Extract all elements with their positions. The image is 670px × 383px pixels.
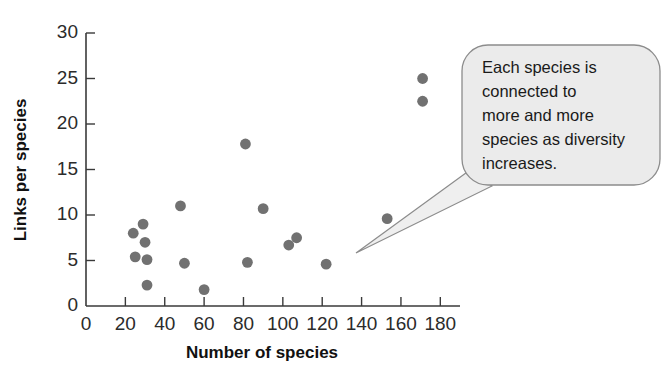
- y-tick-group: 051015202530: [57, 21, 95, 315]
- annotation-callout: Each species isconnected tomore and more…: [356, 45, 660, 253]
- callout-tail: [356, 170, 492, 253]
- data-point: [128, 228, 139, 239]
- callout-line: connected to: [482, 82, 577, 100]
- x-tick-label: 120: [306, 313, 338, 334]
- x-tick-label: 60: [194, 313, 215, 334]
- x-tick-label: 180: [424, 313, 456, 334]
- x-tick-label: 160: [385, 313, 417, 334]
- data-point: [130, 251, 141, 262]
- data-point: [199, 284, 210, 295]
- x-tick-label: 0: [81, 313, 92, 334]
- y-axis: 051015202530 Links per species: [11, 21, 95, 315]
- x-tick-label: 80: [233, 313, 254, 334]
- data-point: [179, 258, 190, 269]
- data-point: [258, 203, 269, 214]
- data-points: [128, 73, 428, 295]
- data-point: [140, 237, 151, 248]
- data-point: [242, 257, 253, 268]
- data-point: [175, 201, 186, 212]
- y-tick-label: 25: [57, 67, 78, 88]
- callout-line: Each species is: [482, 58, 597, 76]
- y-tick-label: 15: [57, 158, 78, 179]
- data-point: [417, 73, 428, 84]
- y-tick-label: 30: [57, 21, 78, 42]
- y-axis-title: Links per species: [11, 99, 30, 242]
- x-tick-group: 020406080100120140160180: [81, 297, 456, 334]
- y-tick-label: 5: [67, 249, 78, 270]
- data-point: [321, 259, 332, 270]
- chart-canvas: 051015202530 Links per species 020406080…: [0, 0, 670, 383]
- x-tick-label: 20: [115, 313, 136, 334]
- callout-line: increases.: [482, 154, 557, 172]
- y-tick-label: 20: [57, 112, 78, 133]
- x-axis-title: Number of species: [186, 343, 338, 362]
- data-point: [142, 280, 153, 291]
- data-point: [382, 213, 393, 224]
- y-tick-label: 0: [67, 294, 78, 315]
- callout-line: species as diversity: [482, 130, 626, 148]
- data-point: [142, 254, 153, 265]
- data-point: [240, 139, 251, 150]
- x-axis: 020406080100120140160180 Number of speci…: [81, 297, 460, 362]
- data-point: [291, 232, 302, 243]
- x-tick-label: 40: [154, 313, 175, 334]
- data-point: [138, 219, 149, 230]
- data-point: [417, 96, 428, 107]
- x-tick-label: 100: [267, 313, 299, 334]
- callout-line: more and more: [482, 106, 594, 124]
- x-tick-label: 140: [346, 313, 378, 334]
- y-tick-label: 10: [57, 203, 78, 224]
- scatter-plot-figure: 051015202530 Links per species 020406080…: [0, 0, 670, 383]
